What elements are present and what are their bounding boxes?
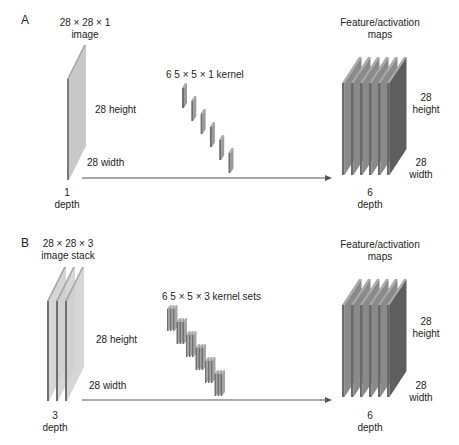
kernel-label-b: 6 5 × 5 × 3 kernel sets	[162, 291, 261, 303]
kernel-b-2-0-edge	[186, 335, 188, 357]
kernel-b-4-1-edge	[208, 361, 210, 383]
output-height-b: 28 height	[408, 316, 444, 340]
output-height-a: 28 height	[408, 92, 444, 116]
kernel-b-0-2-edge	[173, 309, 175, 331]
output-title-b: Feature/activation maps	[340, 239, 420, 263]
kernel-b-3-2-edge	[202, 348, 204, 370]
feature-map-b-0-edge	[342, 305, 345, 397]
output-title-line1-b: Feature/activation	[340, 239, 420, 251]
kernel-a-4-edge	[219, 140, 221, 160]
kernel-b-5-2-edge	[221, 374, 223, 396]
input-plate-b-1-edge	[56, 301, 58, 401]
input-title-a: 28 × 28 × 1 image	[55, 17, 115, 41]
input-depth-label-a: depth	[52, 199, 82, 211]
input-plate-a-0-edge	[67, 79, 69, 180]
kernel-label-a: 6 5 × 5 × 1 kernel	[166, 69, 244, 81]
input-width-a: 28 width	[87, 157, 124, 169]
feature-map-a-5-edge	[387, 83, 390, 175]
input-plate-a-0-face	[69, 45, 86, 180]
kernel-a-3-edge	[210, 127, 212, 147]
output-width-b: 28 width	[403, 380, 439, 404]
input-dims-a: 28 × 28 × 1	[55, 17, 115, 29]
kernel-b-5-2-face	[222, 370, 225, 396]
output-width-a: 28 width	[403, 157, 439, 181]
input-depth-label-b: depth	[40, 422, 70, 434]
output-title-line2-b: maps	[340, 251, 420, 263]
kernel-b-0-1-edge	[170, 309, 172, 331]
feature-map-b-2-edge	[360, 305, 363, 397]
cnn-convolution-diagram: A 28 × 28 × 1 image 28 height 28 width 1…	[0, 0, 459, 445]
kernel-a-0-edge	[182, 88, 184, 108]
output-height-label-a: height	[408, 104, 444, 116]
conv-arrow-b-head	[325, 397, 332, 403]
feature-map-a-3-edge	[369, 83, 372, 175]
diagram-canvas	[0, 0, 459, 445]
kernel-b-4-0-edge	[205, 361, 207, 383]
input-height-a: 28 height	[95, 104, 136, 116]
panel-letter-a: A	[21, 13, 29, 27]
output-depth-value-a: 6	[355, 187, 385, 199]
kernel-a-5-edge	[229, 153, 231, 173]
feature-map-b-1-edge	[351, 305, 354, 397]
input-depth-a: 1 depth	[52, 187, 82, 211]
feature-map-b-4-edge	[378, 305, 381, 397]
kernel-b-1-2-edge	[183, 322, 185, 344]
output-width-value-a: 28	[403, 157, 439, 169]
input-plate-b-2-edge	[65, 301, 67, 401]
output-height-value-b: 28	[408, 316, 444, 328]
kernel-b-4-2-edge	[211, 361, 213, 383]
feature-map-a-2-edge	[360, 83, 363, 175]
input-depth-value-a: 1	[52, 187, 82, 199]
output-depth-a: 6 depth	[355, 187, 385, 211]
feature-map-b-3-edge	[369, 305, 372, 397]
input-title-b: 28 × 28 × 3 image stack	[38, 238, 98, 262]
input-width-b: 28 width	[89, 380, 126, 392]
panel-letter-b: B	[21, 236, 29, 250]
kernel-b-1-0-edge	[177, 322, 179, 344]
output-width-label-a: width	[403, 169, 439, 181]
kernel-b-3-0-edge	[196, 348, 198, 370]
feature-map-a-4-edge	[378, 83, 381, 175]
output-height-label-b: height	[408, 328, 444, 340]
input-depth-b: 3 depth	[40, 410, 70, 434]
feature-map-b-5-edge	[387, 305, 390, 397]
output-depth-b: 6 depth	[355, 410, 385, 434]
input-kind-a: image	[55, 29, 115, 41]
output-width-value-b: 28	[403, 380, 439, 392]
output-depth-value-b: 6	[355, 410, 385, 422]
kernel-b-0-0-edge	[167, 309, 169, 331]
input-plate-b-0-edge	[47, 301, 49, 401]
kernel-b-3-1-edge	[199, 348, 201, 370]
input-depth-value-b: 3	[40, 410, 70, 422]
output-height-value-a: 28	[408, 92, 444, 104]
kernel-b-2-2-edge	[192, 335, 194, 357]
input-dims-b: 28 × 28 × 3	[38, 238, 98, 250]
kernel-b-5-1-edge	[218, 374, 220, 396]
conv-arrow-a-head	[325, 175, 332, 181]
output-title-line2-a: maps	[340, 29, 420, 41]
feature-map-a-0-edge	[342, 83, 345, 175]
kernel-b-5-0-edge	[215, 374, 217, 396]
output-width-label-b: width	[403, 392, 439, 404]
kernel-b-1-1-edge	[180, 322, 182, 344]
input-height-b: 28 height	[96, 334, 137, 346]
kernel-a-1-edge	[191, 101, 193, 121]
feature-map-a-1-edge	[351, 83, 354, 175]
output-depth-label-b: depth	[355, 422, 385, 434]
output-depth-label-a: depth	[355, 199, 385, 211]
input-kind-b: image stack	[38, 250, 98, 262]
output-title-line1-a: Feature/activation	[340, 17, 420, 29]
kernel-b-2-1-edge	[189, 335, 191, 357]
output-title-a: Feature/activation maps	[340, 17, 420, 41]
kernel-a-2-edge	[201, 114, 203, 134]
